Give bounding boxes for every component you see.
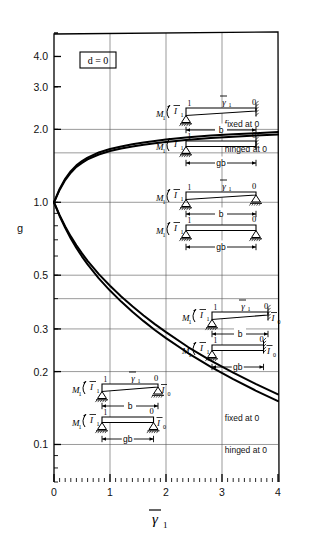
curve-annotation: hinged at 0 xyxy=(225,445,267,455)
lower-left-group-dim-gb-label: gb xyxy=(123,434,133,444)
upper-group-beam-tapered-load: γ xyxy=(222,97,226,107)
lower-left-group-beam-prismatic-node-left: 1 xyxy=(104,408,108,417)
upper-group-dim-gb-label: gb xyxy=(216,158,226,168)
y-axis-title: g xyxy=(17,222,23,234)
upper-hinged-group-beam-prismatic-node-left: 1 xyxy=(188,216,192,225)
lower-right-group-beam-tapered-inertia-sub: 1 xyxy=(207,316,210,322)
upper-hinged-group-beam-tapered-load-sub: 1 xyxy=(229,186,232,192)
lower-right-group-dim-gb-label: gb xyxy=(233,362,243,372)
upper-hinged-group-beam-tapered-load: γ xyxy=(222,181,226,191)
curve-annotation: fixed at 0 xyxy=(225,413,260,423)
lower-right-group-beam-prismatic-right-inertia-sub: 0 xyxy=(273,352,276,358)
upper-hinged-group-dim-b-label: b xyxy=(219,209,224,219)
lower-right-group-beam-prismatic-moment-sub: 1 xyxy=(189,352,192,358)
lower-right-group-beam-prismatic-inertia-sub: 1 xyxy=(207,349,210,355)
lower-right-group-beam-prismatic-node-left: 1 xyxy=(214,336,218,345)
y-tick-label: 0.3 xyxy=(33,323,48,335)
lower-right-group-beam-tapered-moment-sub: 1 xyxy=(189,319,192,325)
x-tick-label: 1 xyxy=(107,486,113,498)
curve-annotation: fixed at 0 xyxy=(225,119,260,129)
upper-group-beam-tapered-inertia-sub: 1 xyxy=(181,112,184,118)
lower-right-group-beam-tapered-node-right: 0 xyxy=(264,301,268,311)
lower-right-group-beam-prismatic-member xyxy=(212,345,264,351)
x-axis-title-subscript: 1 xyxy=(163,520,168,530)
upper-group-beam-tapered-load-sub: 1 xyxy=(229,102,232,108)
x-tick-label: 3 xyxy=(219,486,225,498)
upper-group-beam-prismatic-moment-sub: 1 xyxy=(163,148,166,154)
lower-left-group-beam-prismatic-inertia-sub: 1 xyxy=(97,421,100,427)
x-tick-label: 2 xyxy=(163,486,169,498)
lower-right-group-beam-prismatic-node-right: 0 xyxy=(260,334,264,344)
y-tick-label: 0.1 xyxy=(33,438,48,450)
upper-group-beam-tapered-node-right: 0 xyxy=(252,97,256,107)
upper-hinged-group-beam-prismatic-moment-sub: 1 xyxy=(163,232,166,238)
lower-right-group-dim-b-label: b xyxy=(238,329,243,339)
lower-left-group-beam-tapered-node-right: 0 xyxy=(154,373,158,383)
lower-left-group-beam-tapered-load-sub: 1 xyxy=(138,378,141,384)
lower-left-group-dim-b-label: b xyxy=(128,401,133,411)
y-tick-label: 0.2 xyxy=(33,366,48,378)
case-label-text: d = 0 xyxy=(88,55,109,66)
upper-group-beam-tapered-moment-sub: 1 xyxy=(163,115,166,121)
lower-right-group-beam-tapered-right-inertia-sub: 0 xyxy=(278,319,281,325)
chart-figure: 4.03.02.01.00.50.30.20.1g01234γ1fixed at… xyxy=(0,0,310,548)
lower-left-group-beam-prismatic-right-inertia-sub: 0 xyxy=(163,424,166,430)
upper-hinged-group-dim-gb-label: gb xyxy=(216,242,226,252)
upper-group-beam-prismatic-inertia-sub: 1 xyxy=(181,145,184,151)
lower-left-group-beam-prismatic-moment-sub: 1 xyxy=(79,424,82,430)
lower-left-group-beam-tapered-right-inertia-sub: 0 xyxy=(168,391,171,397)
upper-hinged-group-beam-prismatic-inertia-sub: 1 xyxy=(181,229,184,235)
lower-left-group-beam-tapered-inertia-sub: 1 xyxy=(97,388,100,394)
lower-right-group-beam-tapered-load-sub: 1 xyxy=(248,306,251,312)
upper-group-beam-prismatic-node-right: 0 xyxy=(252,130,256,140)
upper-hinged-group-beam-tapered-inertia-sub: 1 xyxy=(181,196,184,202)
lower-left-group-beam-prismatic-node-right: 0 xyxy=(150,406,154,416)
lower-right-group-beam-tapered-load: γ xyxy=(241,301,245,311)
upper-hinged-group-beam-prismatic-node-right: 0 xyxy=(252,214,256,224)
y-tick-label: 3.0 xyxy=(33,81,48,93)
upper-hinged-group-beam-tapered-node-left: 1 xyxy=(188,183,192,192)
x-tick-label: 0 xyxy=(51,486,57,498)
upper-group-dim-b-label: b xyxy=(219,125,224,135)
chart-svg: 4.03.02.01.00.50.30.20.1g01234γ1fixed at… xyxy=(0,0,310,548)
upper-hinged-group-beam-prismatic-member xyxy=(186,225,256,231)
upper-hinged-group-beam-tapered-moment-sub: 1 xyxy=(163,199,166,205)
upper-hinged-group-beam-tapered-node-right: 0 xyxy=(252,181,256,191)
upper-group-beam-prismatic-node-left: 1 xyxy=(188,132,192,141)
lower-left-group-beam-tapered-node-left: 1 xyxy=(104,375,108,384)
y-tick-label: 1.0 xyxy=(33,196,48,208)
lower-right-group-beam-tapered-node-left: 1 xyxy=(214,303,218,312)
y-tick-label: 4.0 xyxy=(33,50,48,62)
lower-left-group-beam-prismatic-member xyxy=(102,417,154,423)
upper-group-beam-prismatic-member xyxy=(186,141,256,147)
y-tick-label: 2.0 xyxy=(33,123,48,135)
x-tick-label: 4 xyxy=(275,486,281,498)
upper-group-beam-tapered-node-left: 1 xyxy=(188,99,192,108)
lower-left-group-beam-tapered-load: γ xyxy=(131,373,135,383)
lower-left-group-beam-tapered-moment-sub: 1 xyxy=(79,391,82,397)
y-tick-label: 0.5 xyxy=(33,269,48,281)
